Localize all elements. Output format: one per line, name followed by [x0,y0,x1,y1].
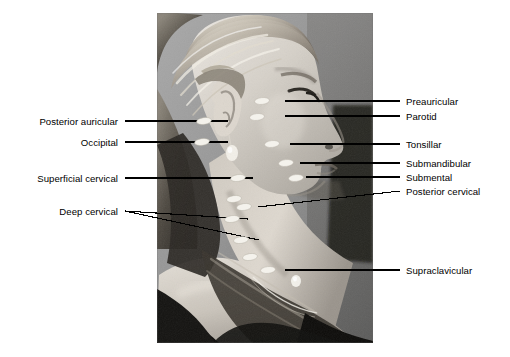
label-tonsillar: Tonsillar [406,139,442,150]
label-submandibular: Submandibular [406,158,471,169]
label-superficial-cervical: Superficial cervical [37,173,118,184]
label-occipital: Occipital [81,137,118,148]
profile-photograph [157,13,373,343]
label-submental: Submental [406,172,452,183]
photograph-canvas [157,13,373,343]
lymph-node-figure: Posterior auricularOccipitalSuperficial … [0,0,510,357]
label-parotid: Parotid [406,111,437,122]
label-posterior-cervical: Posterior cervical [406,186,480,197]
label-deep-cervical: Deep cervical [59,206,118,217]
label-supraclavicular: Supraclavicular [406,265,472,276]
label-posterior-auricular: Posterior auricular [39,116,118,127]
label-preauricular: Preauricular [406,96,458,107]
